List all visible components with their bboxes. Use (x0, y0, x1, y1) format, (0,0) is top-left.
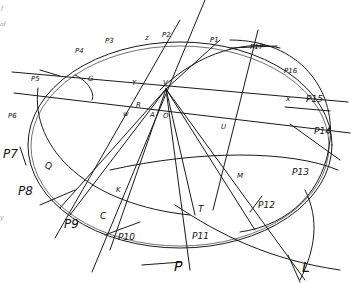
line-p9-vertical (55, 20, 180, 238)
label-p15: P15 (306, 95, 323, 104)
label-p6: P6 (8, 113, 17, 120)
label-p11: P11 (192, 232, 209, 241)
label-p5: P5 (31, 76, 40, 83)
ray-c (110, 89, 166, 250)
label-l: L (302, 260, 310, 274)
ray-q2 (70, 89, 166, 215)
ray-upper (166, 40, 220, 89)
label-m: M (237, 173, 243, 180)
label-r: R (136, 102, 141, 109)
label-p16: P16 (284, 68, 297, 75)
right-arc (230, 40, 330, 232)
construction-drawing (0, 0, 360, 284)
label-p13: P13 (292, 168, 309, 177)
label-p: P (174, 259, 182, 273)
label-q: Q (45, 162, 52, 171)
ray-l (166, 89, 305, 280)
label-p3: P3 (105, 38, 114, 45)
label-p9: P9 (64, 218, 79, 230)
label-y: Y (132, 80, 136, 87)
label-o: O (163, 113, 169, 120)
line-p17-vertical (213, 30, 258, 210)
label-p14: P14 (314, 127, 331, 136)
ray-m (166, 89, 255, 230)
label-c: C (100, 212, 106, 221)
label-p17: P17 (250, 44, 263, 51)
tick-p7 (20, 147, 26, 165)
label-x: x (286, 96, 290, 103)
margin-fragment-2: of (0, 20, 6, 27)
label-p2: P2 (162, 32, 171, 39)
label-u: U (221, 124, 226, 131)
label-w: w (123, 111, 129, 118)
label-a: A (150, 112, 155, 119)
margin-fragment-3: y (0, 213, 3, 220)
tick-p15 (285, 107, 330, 111)
label-p7: P7 (3, 148, 18, 160)
label-p10: P10 (118, 233, 135, 242)
label-g: G (88, 76, 93, 83)
diagram: f of y P3 P4 P2 P1 P17 P16 P15 P14 P13 P… (0, 0, 360, 284)
label-p8: P8 (18, 185, 33, 197)
label-k: K (116, 187, 121, 194)
margin-fragment-1: f (1, 4, 3, 11)
line-middle-horizontal (14, 93, 350, 133)
label-p1: P1 (210, 37, 219, 44)
label-t: T (198, 205, 204, 214)
label-z: z (145, 35, 149, 42)
label-p12: P12 (258, 201, 275, 210)
upper-inner-arc (160, 45, 280, 90)
tick-l (288, 255, 300, 282)
label-p4: P4 (75, 48, 84, 55)
ray-q (60, 89, 166, 208)
label-v: V (163, 80, 168, 87)
